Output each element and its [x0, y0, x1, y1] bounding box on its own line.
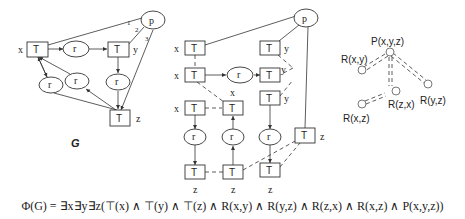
t-label: T — [191, 103, 197, 114]
label-rxy: R(x,y) — [341, 54, 368, 65]
var-y: y — [284, 43, 289, 54]
node-rzx — [392, 87, 400, 95]
tree-edge — [391, 56, 424, 83]
formula: Φ(G) = ∃x∃y∃z(⊤(x) ∧ ⊤(y) ∧ ⊤(z) ∧ R(x,y… — [0, 199, 465, 214]
var-z: z — [231, 184, 236, 195]
edge-p-ty — [279, 25, 299, 41]
var-x: x — [174, 103, 179, 114]
diagram-canvas: 1 2 3 p T x r T y r r r T z G — [0, 0, 465, 219]
var-x: x — [174, 43, 179, 54]
tree-edge — [366, 96, 386, 104]
edge-p-tx — [205, 16, 296, 45]
var-z: z — [268, 184, 273, 195]
node-ryz — [424, 80, 432, 88]
dash-z-link — [280, 143, 300, 167]
var-y: y — [284, 93, 289, 104]
edge-p-tz — [305, 27, 308, 128]
var-z: z — [136, 113, 141, 124]
middle-graph: y p T x T y T x r T T x x — [174, 9, 325, 195]
left-graph: 1 2 3 p T x r T y r r r T z G — [18, 11, 165, 149]
t-label: T — [229, 103, 235, 114]
dash-x-link — [197, 82, 224, 102]
t-label: T — [229, 167, 235, 178]
t-label: T — [191, 43, 197, 54]
t-label: T — [191, 70, 197, 81]
edge-tx-r-left — [38, 57, 47, 77]
right-tree: P(x,y,z) R(x,y) R(z,x) R(y,z) R(x,z) — [341, 36, 446, 124]
edge-number-1: 1 — [127, 19, 131, 27]
tree-edge — [393, 53, 426, 80]
t-label: T — [266, 70, 272, 81]
tree-edge — [365, 93, 385, 101]
label-rzx: R(z,x) — [388, 99, 415, 110]
node-rxz — [358, 100, 366, 108]
edge-number-3: 3 — [145, 35, 149, 43]
t-label: T — [116, 113, 122, 124]
edge-number-2: 2 — [135, 26, 139, 34]
var-z: z — [193, 184, 198, 195]
tree-edge — [365, 56, 388, 71]
var-x: x — [174, 70, 179, 81]
node-root — [386, 48, 394, 56]
label-ryz: R(y,z) — [420, 95, 446, 106]
t-label: T — [301, 130, 307, 141]
var-y: y — [133, 44, 138, 55]
node-rxy — [358, 66, 366, 74]
label-root: P(x,y,z) — [371, 36, 404, 47]
t-label: T — [33, 44, 39, 55]
t-label: T — [191, 167, 197, 178]
edge-tz-r-mid — [86, 89, 116, 110]
t-label: T — [266, 43, 272, 54]
edge-r-mid-tx — [39, 57, 70, 74]
var-z: z — [320, 131, 325, 142]
var-x: x — [18, 44, 23, 55]
graph-title: G — [71, 137, 80, 149]
t-label: T — [266, 165, 272, 176]
t-label: T — [266, 93, 272, 104]
edge-tz-r-left — [54, 93, 117, 110]
var-y: y — [281, 64, 286, 75]
p-label: p — [302, 13, 307, 24]
t-label: T — [114, 44, 120, 55]
var-x: x — [230, 87, 235, 98]
label-rxz: R(x,z) — [343, 113, 370, 124]
p-label: p — [149, 15, 154, 26]
